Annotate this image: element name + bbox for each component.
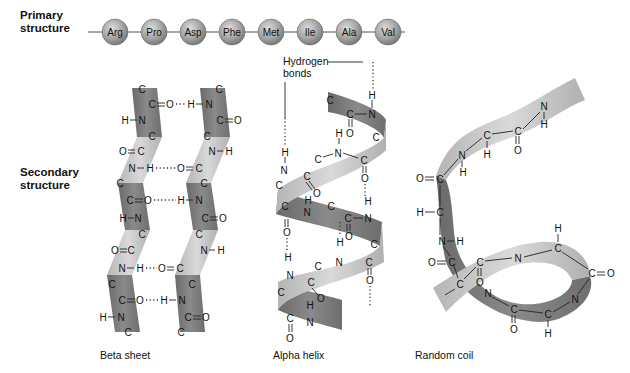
svg-text:C: C (177, 327, 184, 338)
svg-text:C: C (137, 146, 144, 157)
svg-text:N: N (303, 207, 310, 218)
svg-text:N: N (540, 101, 547, 112)
svg-text:N: N (571, 294, 578, 305)
residue-bead: Phe (219, 19, 245, 45)
svg-text:O: O (177, 163, 185, 174)
svg-text:N: N (134, 213, 141, 224)
svg-text:C: C (327, 201, 334, 212)
svg-text:O: O (361, 173, 369, 184)
svg-text:N: N (208, 146, 215, 157)
svg-text:Arg: Arg (107, 27, 123, 38)
svg-text:Phe: Phe (223, 27, 241, 38)
svg-text:N: N (484, 288, 491, 299)
svg-text:N: N (368, 109, 375, 120)
svg-text:H: H (121, 115, 128, 126)
svg-text:C: C (116, 178, 123, 189)
svg-text:N: N (364, 213, 371, 224)
svg-text:H: H (306, 300, 313, 311)
svg-text:C: C (314, 261, 321, 272)
svg-text:Pro: Pro (146, 27, 162, 38)
svg-text:C: C (275, 180, 282, 191)
residue-bead: Val (375, 19, 401, 45)
svg-text:N: N (118, 263, 125, 274)
svg-text:H: H (364, 196, 371, 207)
svg-text:H: H (540, 119, 547, 130)
svg-text:H: H (483, 149, 490, 160)
svg-text:H: H (146, 163, 153, 174)
svg-text:C: C (544, 309, 551, 320)
svg-text:C: C (200, 178, 207, 189)
svg-text:N: N (514, 253, 521, 264)
svg-text:C: C (148, 99, 155, 110)
svg-text:O: O (234, 115, 242, 126)
svg-text:C: C (138, 229, 145, 240)
residue-bead: Arg (102, 19, 128, 45)
residue-bead: Pro (141, 19, 167, 45)
svg-text:H: H (336, 237, 343, 248)
svg-text:O: O (202, 312, 210, 323)
svg-text:N: N (306, 317, 313, 328)
svg-text:O: O (111, 245, 119, 256)
svg-text:C: C (344, 213, 351, 224)
residue-bead: Asp (180, 19, 206, 45)
svg-text:H: H (160, 295, 167, 306)
svg-text:Ile: Ile (305, 27, 316, 38)
svg-text:C: C (127, 245, 134, 256)
svg-text:C: C (216, 115, 223, 126)
svg-text:N: N (280, 165, 287, 176)
alpha-helix: C CN H O C H N C C O H N C O C H C N C C… (275, 55, 386, 344)
residue-bead: Ala (336, 19, 362, 45)
svg-text:O: O (158, 263, 166, 274)
svg-text:O: O (136, 295, 144, 306)
svg-text:H: H (459, 167, 466, 178)
svg-text:C: C (510, 304, 517, 315)
svg-text:C: C (138, 84, 145, 95)
svg-text:C: C (215, 84, 222, 95)
svg-text:C: C (436, 174, 443, 185)
svg-text:N: N (205, 99, 212, 110)
svg-text:N: N (286, 270, 293, 281)
random-coil-caption: Random coil (415, 349, 473, 361)
svg-text:H: H (284, 252, 291, 263)
svg-text:C: C (188, 279, 195, 290)
svg-text:N: N (458, 150, 465, 161)
svg-text:C: C (281, 201, 288, 212)
svg-text:N: N (200, 245, 207, 256)
primary-chain: Arg Pro Asp Phe Met Ile Ala Val (88, 19, 405, 45)
svg-text:N: N (128, 163, 135, 174)
svg-text:Val: Val (381, 27, 395, 38)
svg-text:O: O (283, 227, 291, 238)
residue-bead: Met (258, 19, 284, 45)
svg-text:C: C (448, 257, 455, 268)
svg-text:H: H (544, 328, 551, 339)
svg-text:N: N (195, 195, 202, 206)
svg-text:C: C (346, 109, 353, 120)
hydrogen-bonds-label-2: bonds (283, 67, 312, 79)
svg-text:C: C (476, 257, 483, 268)
svg-text:H: H (217, 245, 224, 256)
svg-text:H: H (177, 195, 184, 206)
svg-text:O: O (416, 173, 424, 184)
svg-text:Ala: Ala (342, 27, 357, 38)
svg-text:C: C (483, 130, 490, 141)
svg-text:C: C (456, 279, 463, 290)
svg-text:O: O (345, 231, 353, 242)
svg-text:C: C (514, 126, 521, 137)
svg-text:C: C (286, 313, 293, 324)
svg-text:C: C (195, 229, 202, 240)
svg-text:O: O (607, 268, 615, 279)
svg-text:H: H (456, 236, 463, 247)
svg-text:C: C (184, 312, 191, 323)
svg-text:C: C (176, 263, 183, 274)
svg-text:H: H (304, 195, 311, 206)
svg-text:C: C (148, 131, 155, 142)
hydrogen-bonds-label: Hydrogen (283, 55, 329, 67)
svg-text:Asp: Asp (184, 27, 202, 38)
svg-text:O: O (286, 333, 294, 344)
svg-text:H: H (187, 99, 194, 110)
svg-text:N: N (335, 257, 342, 268)
svg-text:H: H (225, 146, 232, 157)
svg-text:O: O (166, 99, 174, 110)
svg-text:C: C (118, 295, 125, 306)
svg-text:C: C (201, 213, 208, 224)
